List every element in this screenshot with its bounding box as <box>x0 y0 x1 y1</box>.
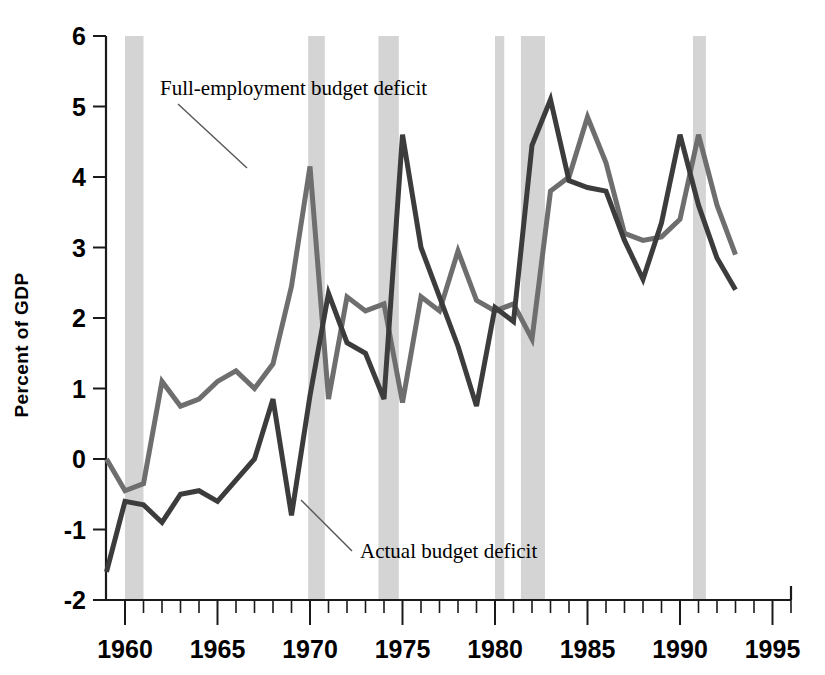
y-tick-label: 3 <box>72 234 86 262</box>
y-tick-label: -1 <box>64 516 86 544</box>
budget-deficit-line-chart: -2-10123456 1960196519701975198019851990… <box>0 0 825 675</box>
annotation-label: Full-employment budget deficit <box>160 76 427 100</box>
x-tick-label: 1995 <box>745 635 801 663</box>
recession-band <box>495 36 504 600</box>
y-tick-label: 4 <box>72 163 86 191</box>
y-tick-label: 5 <box>72 93 86 121</box>
x-tick-label: 1965 <box>190 635 246 663</box>
x-tick-label: 1985 <box>560 635 616 663</box>
y-tick-label: 0 <box>72 445 86 473</box>
recession-band <box>693 36 706 600</box>
x-tick-label: 1990 <box>652 635 708 663</box>
annotation-label: Actual budget deficit <box>360 539 537 563</box>
recession-band <box>125 36 144 600</box>
chart-figure: -2-10123456 1960196519701975198019851990… <box>0 0 825 675</box>
y-tick-label: 6 <box>72 22 86 50</box>
x-tick-label: 1980 <box>467 635 523 663</box>
x-tick-label: 1975 <box>375 635 431 663</box>
x-tick-label: 1970 <box>282 635 338 663</box>
y-tick-label: 2 <box>72 304 86 332</box>
y-tick-label: 1 <box>72 375 86 403</box>
y-tick-label: -2 <box>64 586 86 614</box>
y-axis-title: Percent of GDP <box>11 273 32 418</box>
x-tick-label: 1960 <box>97 635 153 663</box>
